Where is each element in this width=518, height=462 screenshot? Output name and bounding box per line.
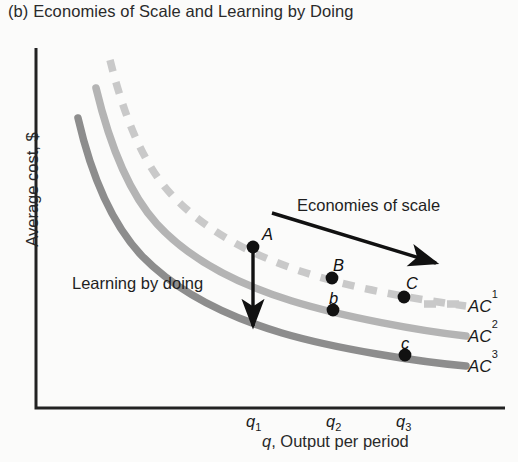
economies-of-scale-arrow [272,213,436,263]
figure-panel: (b) Economies of Scale and Learning by D… [0,0,518,462]
data-point-A [247,241,260,254]
point-label-C: C [406,274,418,293]
point-label-b: b [329,289,338,308]
curve-label-ac3: AC3 [468,355,498,377]
x-tick-q1-sub: 1 [255,421,261,433]
curve-label-ac2-text: AC [468,327,492,346]
x-tick-q1-symbol: q [246,412,255,430]
chart-canvas [0,0,518,462]
x-tick-q2-sub: 2 [335,421,341,433]
curve-label-ac1-text: AC [468,297,492,316]
point-label-A: A [262,225,273,244]
learning-by-doing-label: Learning by doing [72,274,203,293]
x-tick-q2-symbol: q [326,412,335,430]
curve-label-ac2-sup: 2 [492,318,498,330]
curve-label-ac2: AC2 [468,325,498,347]
curve-label-ac1: AC1 [468,295,498,317]
curve-label-ac3-sup: 3 [492,348,498,360]
x-tick-q3-sub: 3 [405,421,411,433]
economies-of-scale-label: Economies of scale [297,196,440,215]
curve-ac1 [110,60,466,306]
x-tick-label-q2: q2 [326,412,341,433]
point-label-B: B [333,256,344,275]
x-tick-label-q1: q1 [246,412,261,433]
curve-label-ac3-text: AC [468,357,492,376]
x-tick-q3-symbol: q [396,412,405,430]
curve-label-ac1-sup: 1 [492,288,498,300]
point-label-c: c [401,334,409,353]
x-tick-label-q3: q3 [396,412,411,433]
